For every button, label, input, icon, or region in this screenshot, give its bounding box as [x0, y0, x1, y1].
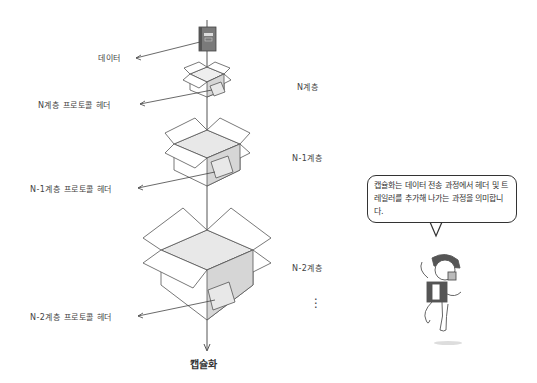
layer-label-n: N계층 [297, 81, 318, 92]
layer-label-n1: N-1계층 [292, 152, 322, 163]
box-n-icon [183, 62, 231, 97]
data-book-icon [199, 27, 216, 51]
character-illustration [421, 254, 462, 345]
diagram-caption: 캡슐화 [190, 356, 217, 371]
data-label: 데이터 [98, 52, 121, 63]
speech-bubble-text: 캡슐화는 데이터 전송 과정에서 헤더 및 트레일러를 추가해 나가는 과정을 … [374, 181, 508, 216]
header-label-n: N계층 프로토콜 헤더 [38, 99, 111, 110]
ellipsis: ⋮ [310, 296, 323, 310]
speech-bubble: 캡슐화는 데이터 전송 과정에서 헤더 및 트레일러를 추가해 나가는 과정을 … [367, 175, 517, 223]
header-label-n2: N-2계층 프로토콜 헤더 [30, 311, 112, 322]
layer-label-n2: N-2계층 [292, 262, 322, 273]
header-label-n1: N-1계층 프로토콜 헤더 [30, 183, 112, 194]
